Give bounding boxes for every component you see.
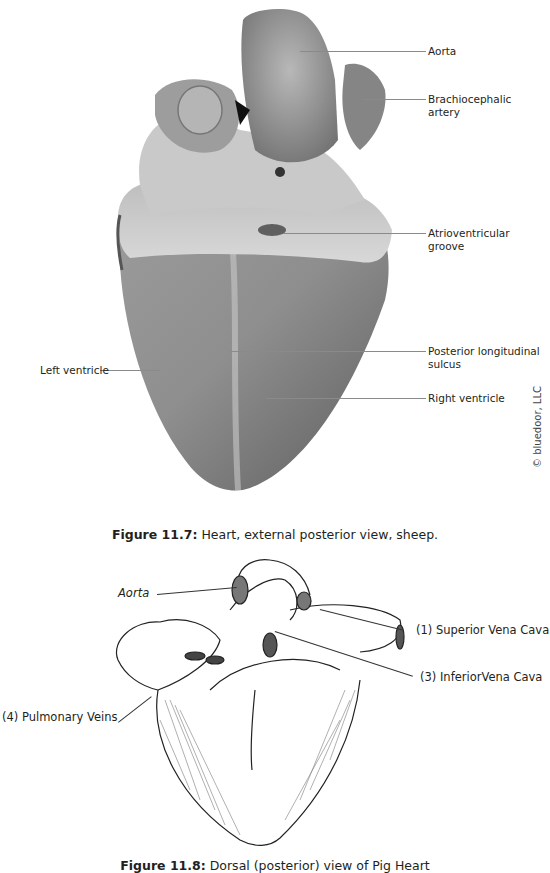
caption-text: Dorsal (posterior) view of Pig Heart: [206, 858, 430, 873]
label-superior-vena-cava: (1) Superior Vena Cava: [416, 623, 549, 637]
label-aorta-drawing: Aorta: [118, 586, 149, 600]
caption-number: Figure 11.8:: [120, 858, 206, 873]
label-pulmonary-veins: (4) Pulmonary Veins: [2, 710, 117, 724]
label-inferior-vena-cava: (3) InferiorVena Cava: [420, 670, 542, 684]
figure-11-8-caption: Figure 11.8: Dorsal (posterior) view of …: [0, 858, 550, 873]
